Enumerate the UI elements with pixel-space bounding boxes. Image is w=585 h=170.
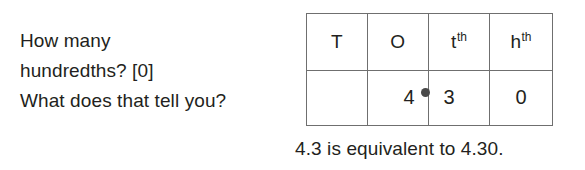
header-sup-hundredths: th [522,30,532,44]
decimal-point-icon [421,88,430,97]
question-block: How many hundredths? [0] What does that … [20,26,285,116]
digit-ones: 4 [403,87,414,107]
data-cell-hundredths: 0 [490,71,553,126]
data-cell-tenths: 3 [429,71,490,126]
question-line-1: How many [20,26,285,56]
data-cell-ones: 4 [368,71,429,126]
header-base-tenths: t [451,31,456,52]
header-base-hundredths: h [510,31,521,52]
table-data-row: 4 3 0 [307,71,553,126]
header-sup-tenths: th [457,30,467,44]
header-label-ones: O [390,31,405,51]
header-cell-tenths: tth [429,14,490,71]
header-base-ones: O [390,31,405,52]
header-cell-tens: T [307,14,368,71]
place-value-table: T O tth hth [306,13,553,126]
question-line-3: What does that tell you? [20,86,285,116]
equivalence-caption: 4.3 is equivalent to 4.30. [295,136,504,162]
header-cell-ones: O [368,14,429,71]
digit-hundredths: 0 [515,87,526,107]
header-label-tens: T [331,31,343,51]
header-label-tenths: tth [451,31,467,51]
data-cell-tens [307,71,368,126]
question-line-2: hundredths? [0] [20,56,285,86]
digit-tenths: 3 [443,87,454,107]
table-header-row: T O tth hth [307,14,553,71]
header-label-hundredths: hth [510,31,531,51]
header-base-tens: T [331,31,343,52]
header-cell-hundredths: hth [490,14,553,71]
